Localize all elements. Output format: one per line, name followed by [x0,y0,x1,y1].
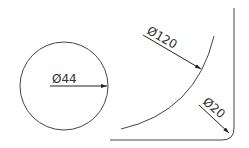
fillet-dimension: Ø20 [199,95,229,133]
large-arc-dimension-label: Ø120 [145,23,180,51]
large-arc-outline [121,36,214,129]
cad-drawing: Ø44 Ø120 Ø20 [0,0,249,148]
circle-feature: Ø44 [20,42,108,130]
fillet-dimension-label: Ø20 [200,95,228,122]
drawing-svg: Ø44 Ø120 Ø20 [0,0,249,148]
circle-dimension-label: Ø44 [52,72,77,86]
large-arc-dimension: Ø120 [143,23,201,69]
